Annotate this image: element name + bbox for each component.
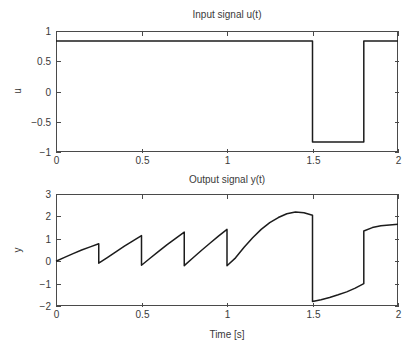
output-y-axis-label: y [12, 248, 23, 253]
top-x-tick-0_5: 0.5 [136, 155, 150, 166]
output-signal-panel: Output signal y(t) y Time [s] −2−1012300… [0, 170, 412, 347]
bottom-y-tick-0: 0 [45, 256, 51, 267]
top-y-tick-1: 1 [45, 26, 51, 37]
bottom-x-tick-1: 1 [225, 309, 231, 320]
bottom-y-tick-neg2: −2 [40, 301, 52, 312]
bottom-y-tick-1: 1 [45, 234, 51, 245]
top-y-tick-0_5: 0.5 [37, 56, 51, 67]
top-y-tick-neg1: −1 [40, 147, 52, 158]
top-x-tick-2: 2 [396, 155, 402, 166]
bottom-x-tick-1_5: 1.5 [307, 309, 321, 320]
top-y-tick-0: 0 [45, 87, 51, 98]
input-signal-trace [56, 41, 398, 142]
top-y-tick-neg0_5: −0.5 [31, 117, 51, 128]
input-signal-panel: Input signal u(t) u −1−0.500.5100.511.52 [0, 0, 412, 172]
top-x-tick-1: 1 [225, 155, 231, 166]
matlab-figure: Input signal u(t) u −1−0.500.5100.511.52… [0, 0, 412, 347]
bottom-y-tick-neg1: −1 [40, 279, 52, 290]
top-x-tick-1_5: 1.5 [307, 155, 321, 166]
top-x-tick-0: 0 [54, 155, 60, 166]
output-x-axis-label: Time [s] [209, 329, 244, 340]
bottom-y-tick-3: 3 [45, 189, 51, 200]
input-y-axis-label: u [12, 88, 23, 94]
input-plot-axes [57, 32, 399, 153]
output-signal-trace [56, 212, 398, 302]
bottom-x-tick-2: 2 [396, 309, 402, 320]
input-plot-title: Input signal u(t) [193, 9, 262, 20]
output-plot-title: Output signal y(t) [189, 174, 265, 185]
bottom-x-tick-0_5: 0.5 [136, 309, 150, 320]
output-plot-tick-labels: −2−1012300.511.52 [40, 189, 402, 320]
bottom-x-tick-0: 0 [54, 309, 60, 320]
input-signal-plot: Input signal u(t) u −1−0.500.5100.511.52 [0, 0, 412, 172]
output-signal-plot: Output signal y(t) y Time [s] −2−1012300… [0, 170, 412, 347]
input-plot-tick-labels: −1−0.500.5100.511.52 [31, 26, 401, 166]
bottom-y-tick-2: 2 [45, 211, 51, 222]
